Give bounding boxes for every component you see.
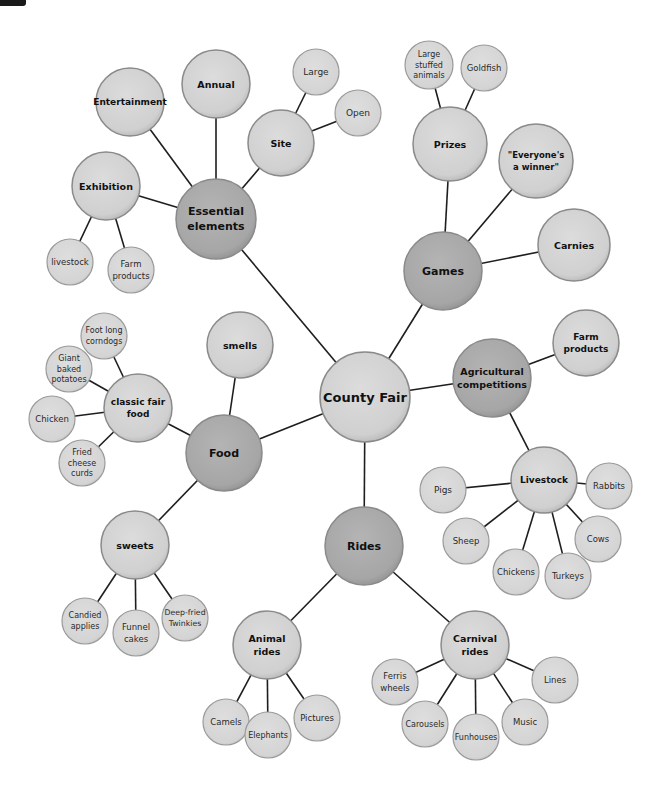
node-label: Camels [210,717,242,727]
node-curds: Friedcheesecurds [59,440,105,486]
node-open: Open [335,90,381,136]
node-label: Elephants [248,731,288,740]
node-label: Twinkies [168,619,202,628]
node-annual: Annual [182,50,250,118]
node-potatoes: Giantbakedpotatoes [46,346,92,392]
node-agri-farm: Farmproducts [553,310,619,376]
node-label: Livestock [520,475,569,485]
node-label: rides [254,646,281,657]
node-label: cheese [68,459,96,468]
node-sheep: Sheep [443,518,489,564]
concept-map-canvas: County FairEssentialelementsEntertainmen… [0,0,662,799]
node-elephants: Elephants [245,712,291,758]
node-label: food [127,409,150,419]
node-label: Foot long [85,326,122,335]
node-label: Animal [249,633,286,644]
node-label: Fried [72,448,92,457]
node-rides: Rides [325,507,403,585]
node-label: Annual [197,79,234,90]
node-label: products [564,344,609,354]
node-label: Carnival [453,633,497,644]
node-large: Large [293,49,339,95]
node-corndogs: Foot longcorndogs [81,313,127,359]
node-goldfish: Goldfish [461,45,507,91]
node-label: competitions [457,379,527,390]
node-label: Carousels [405,720,444,729]
node-chicken: Chicken [29,396,75,442]
node-label: potatoes [51,375,86,384]
node-entertainment: Entertainment [93,68,167,136]
node-label: Lines [544,675,567,685]
node-label: Chicken [35,414,69,424]
node-label: applies [71,622,100,631]
node-label: classic fair [111,397,166,407]
node-pigs: Pigs [420,467,466,513]
node-classic: classic fairfood [104,374,172,442]
node-ferris: Ferriswheels [372,659,418,705]
node-site: Site [248,110,314,176]
node-label: Farm [121,259,142,269]
node-rabbits: Rabbits [586,463,632,509]
node-lines: Lines [532,657,578,703]
node-camels: Camels [203,699,249,745]
node-label: Large [303,67,329,77]
node-label: Ferris [383,671,407,681]
node-label: wheels [380,683,410,693]
node-label: rides [462,646,489,657]
node-label: Prizes [434,139,467,150]
node-label: Rabbits [593,481,625,491]
node-label: Turkeys [551,571,585,581]
node-label: Large [418,50,441,59]
node-label: smells [223,340,258,351]
node-carousels: Carousels [402,701,448,747]
node-ex-farm: Farmproducts [108,247,154,293]
node-smells: smells [207,312,273,378]
node-label: Giant [58,354,80,363]
node-label: elements [187,220,245,233]
node-label: Candied [69,611,102,620]
node-exhibition: Exhibition [72,152,140,220]
node-label: Rides [347,540,382,553]
node-music: Music [502,699,548,745]
node-label: Open [346,108,370,118]
node-label: livestock [51,257,89,267]
node-pictures: Pictures [294,695,340,741]
node-label: Pigs [434,485,452,495]
node-label: Games [422,265,464,278]
node-food: Food [186,415,262,491]
node-label: stuffed [415,61,443,70]
node-label: a winner" [513,162,559,172]
node-label: Agricultural [460,366,523,377]
node-label: Food [209,447,239,460]
node-prizes: Prizes [413,107,487,181]
node-label: curds [71,469,93,478]
node-stuffed: Largestuffedanimals [405,41,453,89]
node-label: Sheep [453,536,480,546]
node-sweets: sweets [101,511,169,579]
node-label: Cows [587,534,610,544]
node-label: Farm [573,332,599,342]
node-label: County Fair [323,390,408,405]
node-carnival: Carnivalrides [441,611,509,679]
node-turkeys: Turkeys [545,553,591,599]
node-label: baked [57,365,81,374]
node-twinkies: Deep-friedTwinkies [162,595,208,641]
node-animal-rides: Animalrides [233,611,301,679]
node-label: Carnies [554,240,595,251]
node-candied: Candiedapplies [62,598,108,644]
node-label: Deep-fried [164,608,205,617]
node-label: sweets [116,540,154,551]
node-county-fair: County Fair [320,352,410,442]
node-label: Funnel [122,622,150,632]
node-ex-livestock: livestock [47,239,93,285]
node-games: Games [404,232,482,310]
node-label: Entertainment [93,97,167,107]
node-label: corndogs [86,337,123,346]
node-label: Goldfish [467,63,502,73]
node-winner: "Everyone'sa winner" [499,124,573,198]
node-label: Site [270,138,291,149]
node-cows: Cows [575,516,621,562]
node-carnies: Carnies [538,209,610,281]
node-label: Essential [188,205,244,218]
node-agri: Agriculturalcompetitions [453,339,531,417]
